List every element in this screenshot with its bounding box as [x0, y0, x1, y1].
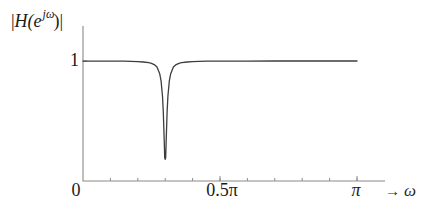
x-axis-arrow-label: →ω [385, 181, 416, 201]
ylabel-H: H [15, 11, 28, 31]
x-tick-label-0: 0 [66, 180, 86, 200]
ylabel-e: (e [28, 11, 42, 31]
omega-symbol: ω [404, 181, 416, 200]
ylabel-exponent: jω [43, 7, 55, 21]
arrow-right-icon: → [385, 183, 400, 199]
axes [83, 26, 385, 181]
notch-filter-magnitude-plot: |H(ejω)| 1 0 0.5π π →ω [0, 0, 434, 213]
y-tick-label-1: 1 [58, 51, 79, 70]
x-tick-label-half-pi: 0.5π [200, 180, 244, 200]
y-axis-label: |H(ejω)| [11, 6, 63, 31]
ylabel-close: )| [53, 11, 63, 31]
magnitude-response-curve [83, 61, 357, 159]
x-tick-label-pi: π [347, 180, 365, 200]
